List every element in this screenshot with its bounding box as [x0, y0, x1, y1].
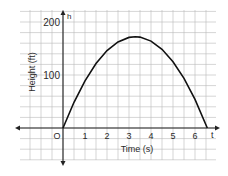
- x-tick-label-3: 3: [126, 131, 131, 141]
- x-tick-label-2: 2: [104, 131, 109, 141]
- x-tick-label-1: 1: [82, 131, 87, 141]
- height-vs-time-chart: 200 100 h t O 1 2 3 4 5 6 Time (s) Heigh…: [0, 0, 228, 176]
- data-curve: [63, 37, 207, 128]
- origin-label: O: [53, 131, 60, 141]
- x-tick-label-4: 4: [148, 131, 153, 141]
- y-tick-label-100: 100: [43, 70, 60, 81]
- y-axis-name: h: [67, 12, 71, 21]
- y-tick-label-200: 200: [43, 17, 60, 28]
- x-tick-label-6: 6: [192, 131, 197, 141]
- x-axis-title: Time (s): [121, 144, 154, 154]
- y-axis-title: Height (ft): [27, 52, 37, 92]
- x-tick-label-5: 5: [170, 131, 175, 141]
